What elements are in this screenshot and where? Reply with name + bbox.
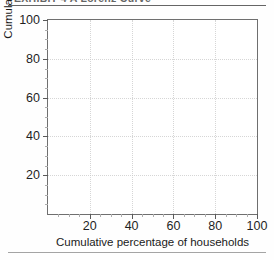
gridline-horizontal [48, 136, 257, 137]
y-axis-tick [43, 20, 48, 21]
x-axis-minor-tick [247, 214, 248, 217]
x-axis-minor-tick [194, 214, 195, 217]
x-axis-minor-tick [79, 214, 80, 217]
y-axis-minor-tick [45, 127, 48, 128]
x-axis-tick-label: 60 [166, 219, 180, 233]
y-axis-tick [43, 59, 48, 60]
gridline-vertical [173, 20, 174, 214]
gridline-horizontal [48, 175, 257, 176]
y-axis-tick [43, 175, 48, 176]
y-axis-minor-tick [45, 107, 48, 108]
gridline-vertical [90, 20, 91, 214]
x-axis-tick-label: 40 [125, 219, 139, 233]
y-axis-title: Cumulative percentage of income [0, 0, 16, 51]
y-axis-minor-tick [45, 156, 48, 157]
x-axis-minor-tick [226, 214, 227, 217]
y-axis-minor-tick [45, 204, 48, 205]
y-axis-tick-label: 80 [26, 52, 40, 66]
x-axis-minor-tick [58, 214, 59, 217]
figure-container: EXHIBIT 4 A Lorenz Curve 204060801002040… [0, 0, 274, 260]
y-axis-minor-tick [45, 185, 48, 186]
y-axis-tick [43, 98, 48, 99]
gridline-horizontal [48, 98, 257, 99]
x-axis-minor-tick [163, 214, 164, 217]
y-axis-tick-label: 60 [26, 91, 40, 105]
x-axis-tick-label: 80 [208, 219, 222, 233]
x-axis-minor-tick [153, 214, 154, 217]
footer-rule [8, 252, 266, 253]
y-axis-minor-tick [45, 78, 48, 79]
y-axis-minor-tick [45, 30, 48, 31]
y-axis-minor-tick [45, 49, 48, 50]
x-axis-minor-tick [184, 214, 185, 217]
y-axis-minor-tick [45, 195, 48, 196]
x-axis-tick-label: 100 [247, 219, 268, 233]
figure-caption: EXHIBIT 4 A Lorenz Curve [14, 0, 260, 3]
header-rule [8, 5, 266, 6]
y-axis-minor-tick [45, 69, 48, 70]
plot-area: 2040608010020406080100 [47, 19, 258, 215]
gridline-vertical [215, 20, 216, 214]
x-axis-title: Cumulative percentage of households [47, 236, 258, 248]
x-axis-minor-tick [205, 214, 206, 217]
y-axis-minor-tick [45, 39, 48, 40]
y-axis-tick [43, 136, 48, 137]
y-axis-minor-tick [45, 117, 48, 118]
x-axis-minor-tick [236, 214, 237, 217]
x-axis-minor-tick [69, 214, 70, 217]
gridline-vertical [132, 20, 133, 214]
y-axis-tick-label: 40 [26, 129, 40, 143]
x-axis-minor-tick [142, 214, 143, 217]
y-axis-minor-tick [45, 166, 48, 167]
y-axis-minor-tick [45, 88, 48, 89]
x-axis-minor-tick [100, 214, 101, 217]
gridline-horizontal [48, 59, 257, 60]
x-axis-minor-tick [111, 214, 112, 217]
x-axis-tick-label: 20 [83, 219, 97, 233]
y-axis-minor-tick [45, 146, 48, 147]
y-axis-tick-label: 100 [19, 13, 40, 27]
y-axis-tick-label: 20 [26, 168, 40, 182]
x-axis-minor-tick [121, 214, 122, 217]
